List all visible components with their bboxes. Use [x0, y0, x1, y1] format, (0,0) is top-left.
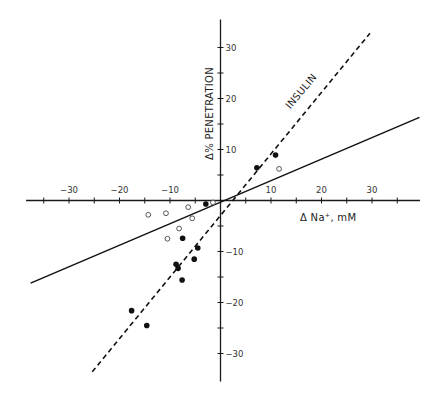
insulin-annotation: INSULIN [283, 71, 319, 110]
y-tick-label: −10 [226, 247, 244, 257]
filled-data-point [175, 266, 181, 272]
insulin-regression-line [92, 33, 370, 372]
filled-data-point [180, 235, 186, 241]
filled-data-point [195, 245, 201, 251]
x-tick-label: 20 [316, 185, 327, 195]
y-tick-label: −20 [226, 298, 244, 308]
y-tick-label: 10 [226, 145, 237, 155]
x-tick-label: 30 [367, 185, 378, 195]
open-data-point [186, 205, 191, 210]
x-axis-label: Δ Na⁺, mM [300, 212, 356, 223]
x-tick-label: −10 [161, 185, 179, 195]
open-data-point [277, 166, 282, 171]
filled-data-point [179, 277, 185, 283]
filled-data-point [129, 308, 135, 314]
open-data-point [165, 236, 170, 241]
open-data-point [164, 211, 169, 216]
data-points [129, 152, 282, 328]
y-axis-label: Δ% PENETRATION [204, 67, 215, 160]
filled-data-point [203, 201, 209, 207]
y-tick-label: 30 [226, 43, 237, 53]
open-data-point [211, 200, 216, 205]
scatter-chart: −30−20−10102030−30−20−10102030 Δ Na⁺, mM… [0, 0, 443, 399]
filled-data-point [254, 165, 260, 171]
x-tick-label: −20 [111, 185, 129, 195]
open-data-point [146, 212, 151, 217]
y-tick-label: 20 [226, 94, 237, 104]
x-tick-label: 10 [266, 185, 277, 195]
x-tick-label: −30 [60, 185, 78, 195]
regression-lines [31, 33, 420, 372]
filled-data-point [273, 152, 279, 158]
open-data-point [177, 226, 182, 231]
filled-data-point [144, 323, 150, 329]
filled-data-point [191, 256, 197, 262]
y-tick-label: −30 [226, 349, 244, 359]
open-data-point [190, 216, 195, 221]
